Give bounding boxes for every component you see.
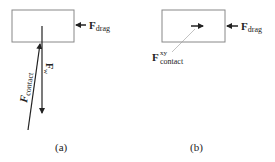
drag-label-a: Fdrag: [89, 19, 110, 33]
contact-sub-b: contact: [160, 57, 184, 66]
caption-a: (a): [55, 141, 68, 154]
force-diagram: Fdrag Fw Fcontact (a) Fdrag F xy contact…: [0, 0, 275, 162]
weight-label: Fw: [42, 63, 55, 75]
contact-label-b: F: [152, 51, 159, 63]
contact-sup-b: xy: [160, 49, 168, 57]
panel-b: Fdrag F xy contact (b): [152, 10, 262, 154]
leader-line: [172, 29, 195, 52]
drag-label-b: Fdrag: [241, 20, 262, 34]
panel-a: Fdrag Fw Fcontact (a): [12, 10, 110, 154]
caption-b: (b): [190, 141, 203, 154]
block-a: [12, 10, 74, 42]
